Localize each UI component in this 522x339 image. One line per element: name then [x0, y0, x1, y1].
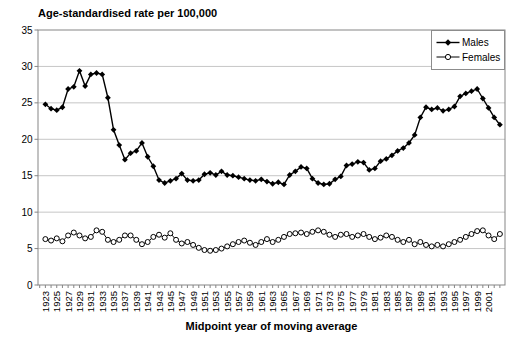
female-data-point [49, 238, 54, 243]
male-data-point [355, 159, 361, 165]
y-tick-label: 35 [21, 25, 33, 36]
male-data-point [230, 173, 236, 179]
x-tick-label: 1997 [460, 291, 471, 312]
female-data-point [134, 237, 139, 242]
female-data-point [151, 234, 156, 239]
x-tick-label: 1947 [176, 291, 187, 312]
x-tick-label: 1949 [188, 291, 199, 312]
male-data-point [264, 179, 270, 185]
x-tick-label: 1959 [244, 291, 255, 312]
male-data-point [105, 95, 111, 101]
female-data-point [185, 240, 190, 245]
x-tick-label: 1989 [415, 291, 426, 312]
female-data-point [208, 248, 213, 253]
female-data-point [281, 234, 286, 239]
male-data-point [349, 161, 355, 167]
x-tick-label: 1975 [335, 291, 346, 312]
y-tick-label: 5 [27, 243, 33, 254]
female-data-point [191, 242, 196, 247]
x-tick-label: 1957 [233, 291, 244, 312]
male-data-point [94, 70, 100, 76]
female-data-point [253, 242, 258, 247]
male-data-point [253, 178, 259, 184]
series-males [42, 68, 502, 187]
legend: Males Females [432, 31, 505, 70]
x-tick-label: 1961 [256, 291, 267, 312]
female-data-point [105, 237, 110, 242]
x-tick-label: 1963 [267, 291, 278, 312]
x-tick-label: 2001 [483, 291, 494, 312]
plot-area: 0510152025303519231925192719291931193319… [0, 0, 522, 339]
female-data-point [66, 233, 71, 238]
male-data-point [156, 177, 162, 183]
female-data-point [429, 244, 434, 249]
male-data-point [270, 181, 276, 187]
female-data-point [168, 231, 173, 236]
male-data-point [190, 178, 196, 184]
female-data-point [344, 232, 349, 237]
female-data-point [196, 245, 201, 250]
x-tick-label: 1925 [51, 291, 62, 312]
female-data-point [338, 232, 343, 237]
x-tick-label: 1999 [472, 291, 483, 312]
female-data-point [139, 242, 144, 247]
female-data-point [43, 237, 48, 242]
y-tick-label: 20 [21, 134, 33, 145]
female-data-point [384, 233, 389, 238]
female-data-point [145, 240, 150, 245]
x-tick-label: 1929 [74, 291, 85, 312]
female-data-point [389, 234, 394, 239]
male-data-point [111, 127, 117, 133]
x-tick-label: 1939 [131, 291, 142, 312]
x-tick-label: 1923 [40, 291, 51, 312]
female-data-point [480, 228, 485, 233]
x-tick-label: 1955 [222, 291, 233, 312]
chart: Age-standardised rate per 100,000 051015… [0, 0, 522, 339]
x-tick-label: 1979 [358, 291, 369, 312]
x-tick-label: 1967 [290, 291, 301, 312]
y-tick-label: 0 [27, 280, 33, 291]
x-axis-title: Midpoint year of moving average [38, 320, 505, 332]
female-data-point [316, 228, 321, 233]
x-tick-label: 1937 [119, 291, 130, 312]
male-data-point [434, 105, 440, 111]
female-data-point [230, 242, 235, 247]
female-data-point [225, 244, 230, 249]
female-data-point [287, 232, 292, 237]
x-tick-label: 1981 [369, 291, 380, 312]
females-marker-icon [445, 54, 450, 59]
female-data-point [219, 246, 224, 251]
male-data-point [258, 176, 264, 182]
female-data-point [293, 231, 298, 236]
female-data-point [174, 237, 179, 242]
male-data-point [321, 182, 327, 188]
female-data-point [264, 237, 269, 242]
female-data-point [71, 230, 76, 235]
male-data-point [344, 163, 350, 169]
female-data-point [276, 237, 281, 242]
female-data-point [361, 232, 366, 237]
female-data-point [406, 237, 411, 242]
female-data-point [395, 237, 400, 242]
x-tick-label: 1945 [165, 291, 176, 312]
female-data-point [247, 240, 252, 245]
female-data-point [327, 232, 332, 237]
female-data-point [412, 242, 417, 247]
x-tick-label: 1927 [63, 291, 74, 312]
female-data-point [304, 232, 309, 237]
male-data-point [241, 176, 247, 182]
x-tick-label: 1993 [438, 291, 449, 312]
female-data-point [333, 234, 338, 239]
female-data-point [441, 244, 446, 249]
female-data-point [94, 228, 99, 233]
male-data-point [60, 104, 66, 110]
female-data-point [213, 248, 218, 253]
male-data-point [162, 180, 168, 186]
legend-label-males: Males [462, 37, 489, 48]
female-data-point [355, 233, 360, 238]
female-data-point [128, 233, 133, 238]
male-data-point [247, 177, 253, 183]
male-data-point [99, 72, 105, 78]
male-data-point [446, 107, 452, 113]
female-data-point [100, 229, 105, 234]
